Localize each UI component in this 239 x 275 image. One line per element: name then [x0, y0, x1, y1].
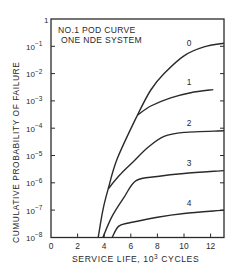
y-tick-label: 10−8	[26, 231, 43, 243]
x-axis-label: SERVICE LIFE, 103 CYCLES	[72, 253, 199, 265]
y-tick-label: 10−3	[26, 95, 43, 107]
x-tick-label: 0	[49, 241, 54, 251]
curve-label-1: 1	[187, 77, 192, 87]
y-tick-label: 1	[44, 16, 49, 25]
plot-frame	[51, 19, 224, 238]
chart-title: NO.1 POD CURVE	[58, 25, 136, 35]
x-tick-label: 2	[75, 241, 80, 251]
y-tick-label: 10−2	[26, 68, 43, 80]
y-tick-label: 10−1	[26, 40, 43, 52]
curve-3	[103, 171, 224, 238]
curve-label-3: 3	[187, 158, 192, 168]
x-tick-label: 8	[155, 241, 160, 251]
x-axis-ticks: 024681012	[49, 234, 216, 252]
y-axis-ticks: 110−110−210−310−410−510−610−710−8	[26, 16, 224, 243]
y-tick-label: 10−4	[26, 122, 43, 134]
x-tick-label: 12	[206, 241, 216, 251]
y-tick-label: 10−7	[26, 204, 43, 216]
x-tick-label: 4	[102, 241, 107, 251]
pod-chart: 110−110−210−310−410−510−610−710−8 024681…	[0, 0, 239, 275]
curve-label-2: 2	[187, 118, 192, 128]
curve-label-0: 0	[187, 38, 192, 48]
curve-4	[112, 210, 224, 237]
y-tick-label: 10−5	[26, 150, 43, 162]
y-axis-label: CUMULATIVE PROBABILITY OF FAILURE	[11, 62, 21, 243]
y-tick-label: 10−6	[26, 177, 43, 189]
x-tick-label: 6	[128, 241, 133, 251]
x-tick-label: 10	[179, 241, 189, 251]
curves: 01234	[98, 38, 224, 238]
curve-label-4: 4	[187, 198, 192, 208]
chart-subtitle: ONE NDE SYSTEM	[61, 35, 142, 45]
